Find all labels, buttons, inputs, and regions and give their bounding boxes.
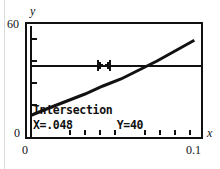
x-axis-label: x <box>207 126 212 141</box>
status-title: Intersection <box>33 103 112 117</box>
y-axis-label: y <box>30 4 35 19</box>
x-axis-min-label: 0 <box>22 143 28 158</box>
calculator-screenshot: 60 0 0 0.1 y x <box>0 0 220 169</box>
plot-area: Intersection X=.048 Y=40 <box>27 24 201 137</box>
x-axis-max-label: 0.1 <box>186 143 201 158</box>
calculator-screen-frame: Intersection X=.048 Y=40 <box>25 22 203 139</box>
y-axis-max-label: 60 <box>7 17 19 32</box>
y-readout: Y=40 <box>117 118 144 132</box>
x-readout: X=.048 <box>33 118 73 132</box>
y-axis-min-label: 0 <box>14 126 20 141</box>
figure-left-rule <box>4 0 5 169</box>
status-readout-row: X=.048 Y=40 <box>33 118 143 132</box>
